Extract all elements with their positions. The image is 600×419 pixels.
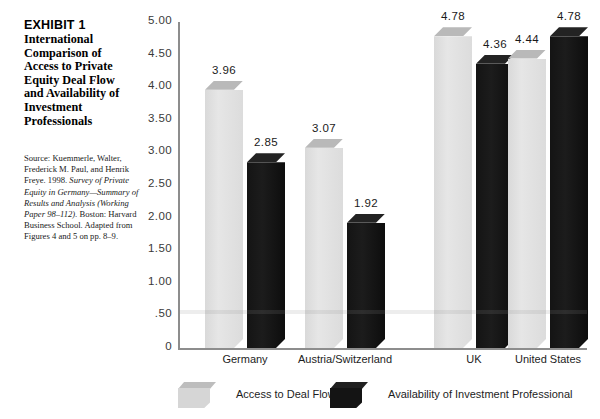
bar-germany-series1 <box>205 81 243 348</box>
y-tick-label: 1.00 <box>126 275 172 287</box>
y-tick-label: 2.50 <box>126 177 172 189</box>
bar-chart: 5.004.504.003.503.002.502.001.501.00.500… <box>0 0 600 419</box>
bar-front-face <box>347 223 385 348</box>
legend-label: Availability of Investment Professional <box>388 388 572 400</box>
legend-swatch-icon <box>330 382 368 408</box>
chart-legend: Access to Deal FlowAvailability of Inves… <box>178 380 598 414</box>
legend-swatch-front-face <box>330 388 362 408</box>
bar-united-states-series1 <box>508 50 546 348</box>
y-tick-label: .50 <box>126 307 172 319</box>
category-label-united-states: United States <box>468 353 600 365</box>
bar-top-face <box>305 139 343 148</box>
bar-uk-series1 <box>434 27 472 348</box>
bar-united-states-series2 <box>550 27 588 348</box>
y-tick-label: 4.50 <box>126 47 172 59</box>
bar-austria-switzerland-series2 <box>347 214 385 348</box>
y-tick-label: 1.50 <box>126 242 172 254</box>
bar-top-face <box>434 27 472 36</box>
legend-swatch-front-face <box>178 388 210 408</box>
y-axis-line <box>178 22 180 349</box>
bar-value-label: 4.44 <box>502 33 552 45</box>
bar-top-face <box>247 153 285 162</box>
bar-value-label: 3.07 <box>299 122 349 134</box>
bar-value-label: 2.85 <box>241 136 291 148</box>
y-tick-label: 0 <box>126 340 172 352</box>
legend-swatch-icon <box>178 382 216 408</box>
y-tick-label: 4.00 <box>126 79 172 91</box>
legend-label: Access to Deal Flow <box>236 388 336 400</box>
bar-germany-series2 <box>247 153 285 348</box>
y-tick-label: 5.00 <box>126 14 172 26</box>
bar-front-face <box>434 36 472 348</box>
bar-front-face <box>550 36 588 348</box>
bar-front-face <box>247 162 285 348</box>
y-tick-label: 3.50 <box>126 112 172 124</box>
bar-top-face <box>205 81 243 90</box>
bar-top-face <box>347 214 385 223</box>
bar-front-face <box>205 90 243 348</box>
y-tick-label: 2.00 <box>126 210 172 222</box>
bar-front-face <box>508 59 546 348</box>
bar-value-label: 3.96 <box>199 64 249 76</box>
bar-front-face <box>305 148 343 348</box>
bar-top-face <box>550 27 588 36</box>
x-axis-line <box>178 348 587 350</box>
legend-swatch-top-face <box>330 382 368 389</box>
bar-austria-switzerland-series1 <box>305 139 343 348</box>
bar-top-face <box>508 50 546 59</box>
legend-swatch-top-face <box>178 382 216 389</box>
y-tick-label: 3.00 <box>126 144 172 156</box>
bar-value-label: 4.78 <box>428 10 478 22</box>
bar-value-label: 4.78 <box>544 10 594 22</box>
bar-value-label: 1.92 <box>341 197 391 209</box>
